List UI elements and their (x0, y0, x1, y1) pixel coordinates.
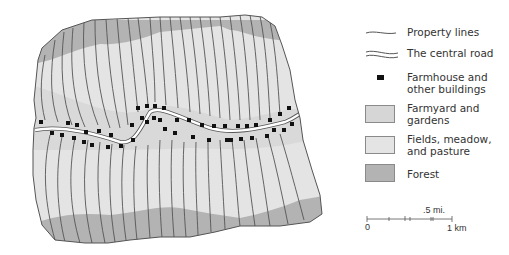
legend-label: Farmhouse and other buildings (407, 71, 488, 95)
scale-zero-label: 0 (365, 222, 370, 232)
legend-label: The central road (407, 47, 494, 59)
legend-label: Property lines (407, 26, 479, 38)
legend-label: Farmyard and gardens (407, 102, 479, 126)
property-line-icon (365, 28, 397, 38)
scale-mi-label: .5 mi. (423, 205, 445, 215)
legend-label: Forest (407, 168, 439, 180)
map-area (0, 0, 360, 255)
farmyard-swatch-icon (365, 105, 395, 123)
forest-swatch-icon (365, 164, 395, 182)
scale-bar: .5 mi. 0 1 km (365, 205, 495, 245)
legend-label: Fields, meadow, and pasture (407, 133, 492, 157)
village-map (0, 0, 360, 255)
building-icon (377, 75, 384, 80)
fields-swatch-icon (365, 136, 395, 154)
scale-km-label: 1 km (447, 223, 467, 233)
road-icon (365, 48, 399, 60)
